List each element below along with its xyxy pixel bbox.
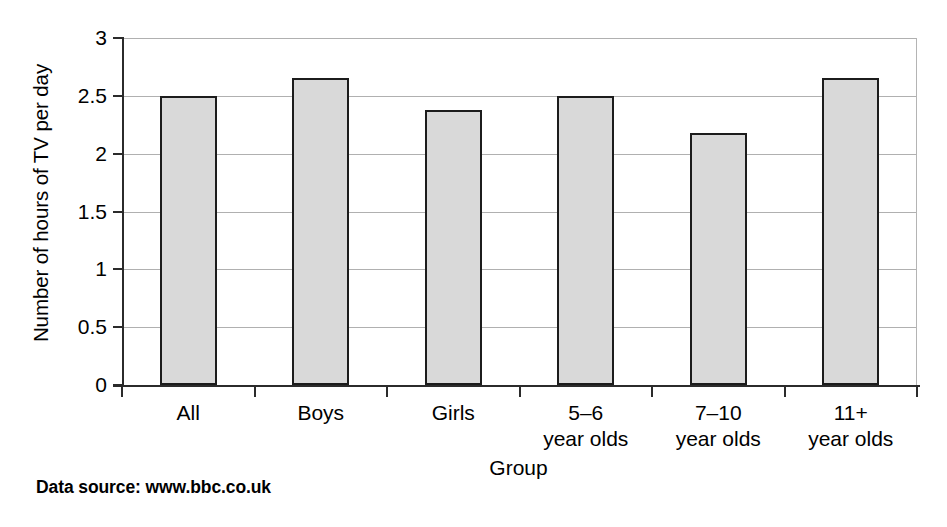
x-axis-category-label: 5–6year olds xyxy=(520,400,653,452)
x-axis-category-label-line1: Girls xyxy=(432,401,475,424)
y-axis-tick-label: 1.5 xyxy=(45,201,107,222)
gridline xyxy=(123,96,916,97)
x-axis-category-label-line2: year olds xyxy=(520,426,653,452)
x-axis-category-label-line2: year olds xyxy=(652,426,785,452)
x-axis-tick xyxy=(254,387,256,397)
gridline xyxy=(123,38,916,39)
gridline xyxy=(123,327,916,328)
bar-chart-figure: Number of hours of TV per day Group Data… xyxy=(0,0,947,527)
bar xyxy=(425,110,482,385)
x-axis-category-label: 11+year olds xyxy=(785,400,918,452)
source-note: Data source: www.bbc.co.uk xyxy=(36,477,271,498)
plot-area xyxy=(122,38,917,385)
x-axis-tick xyxy=(651,387,653,397)
y-axis-tick xyxy=(113,211,122,213)
y-axis-tick xyxy=(113,384,122,386)
gridline xyxy=(123,212,916,213)
x-axis-category-label: Boys xyxy=(255,400,388,426)
x-axis-category-label-line1: 5–6 xyxy=(568,401,603,424)
y-axis-tick-label: 1 xyxy=(45,258,107,279)
x-axis-tick xyxy=(916,387,918,397)
bar xyxy=(160,96,217,385)
x-axis-line xyxy=(113,385,920,387)
x-axis-tick xyxy=(121,387,123,397)
x-axis-tick xyxy=(519,387,521,397)
y-axis-tick-label: 3 xyxy=(45,27,107,48)
x-axis-category-label-line2: year olds xyxy=(785,426,918,452)
bar xyxy=(822,78,879,385)
x-axis-category-label: 7–10year olds xyxy=(652,400,785,452)
bar xyxy=(690,133,747,385)
x-axis-category-label-line1: All xyxy=(177,401,200,424)
y-axis-tick xyxy=(113,95,122,97)
y-axis-tick-label: 0 xyxy=(45,374,107,395)
x-axis-category-label-line1: Boys xyxy=(297,401,344,424)
bar xyxy=(292,78,349,385)
x-axis-tick xyxy=(784,387,786,397)
x-axis-category-label: All xyxy=(122,400,255,426)
y-axis-tick xyxy=(113,37,122,39)
y-axis-tick-label: 0.5 xyxy=(45,316,107,337)
y-axis-tick-label: 2 xyxy=(45,143,107,164)
x-axis-category-label-line1: 7–10 xyxy=(695,401,742,424)
y-axis-tick-label: 2.5 xyxy=(45,85,107,106)
y-axis-tick xyxy=(113,268,122,270)
gridline xyxy=(123,154,916,155)
x-axis-tick xyxy=(386,387,388,397)
y-axis-tick xyxy=(113,326,122,328)
x-axis-category-label-line1: 11+ xyxy=(834,401,868,424)
y-axis-line xyxy=(122,37,124,387)
x-axis-category-label: Girls xyxy=(387,400,520,426)
bar xyxy=(557,96,614,385)
gridline xyxy=(123,269,916,270)
y-axis-tick xyxy=(113,153,122,155)
